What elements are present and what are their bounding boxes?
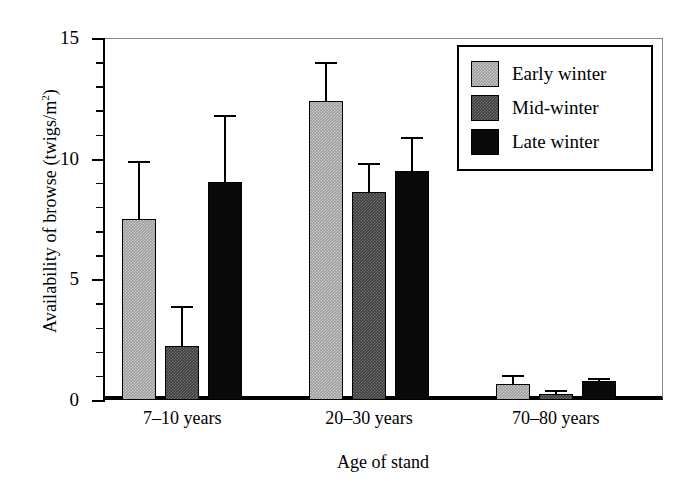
error-bar-cap-late-group-1 [214,115,236,117]
error-bar-cap-late-group-3 [588,378,610,380]
legend: Early winter Mid-winter Late winter [457,45,653,171]
error-bar-cap-early-group-3 [502,375,524,377]
error-bar-line-mid-group-1 [181,306,183,346]
legend-swatch-mid-winter [471,95,499,121]
bar-mid-winter-group-1 [165,346,199,400]
chart-figure: Availability of browse (twigs/m2) 051015… [0,0,694,499]
legend-item-mid-winter: Mid-winter [471,91,639,125]
y-axis-tick-label: 5 [19,269,79,288]
y-axis-title-tail: ) [40,89,60,95]
error-bar-cap-mid-group-1 [171,306,193,308]
y-axis-major-tick [92,400,105,402]
error-bar-line-late-group-1 [224,115,226,181]
legend-item-early-winter: Early winter [471,57,639,91]
bar-early-winter-group-2 [309,101,343,400]
x-axis-group-label-2: 20–30 years [279,408,459,429]
x-axis-group-label-3: 70–80 years [466,408,646,429]
bar-early-winter-group-1 [122,219,156,400]
error-bar-cap-mid-group-3 [545,390,567,392]
x-axis-group-label-1: 7–10 years [92,408,272,429]
legend-label-late-winter: Late winter [512,131,599,153]
bar-mid-winter-group-2 [352,192,386,400]
error-bar-cap-early-group-1 [128,161,150,163]
x-axis-title: Age of stand [103,452,663,473]
legend-label-early-winter: Early winter [512,63,606,85]
legend-swatch-late-winter [471,129,499,155]
y-axis-title: Availability of browse (twigs/m2) [39,11,61,411]
bar-late-winter-group-2 [395,171,429,400]
error-bar-cap-mid-group-2 [358,163,380,165]
error-bar-cap-late-group-2 [401,137,423,139]
error-bar-line-early-group-1 [138,161,140,219]
bar-late-winter-group-1 [208,182,242,400]
bar-early-winter-group-3 [496,384,530,400]
bar-mid-winter-group-3 [539,394,573,400]
legend-swatch-early-winter [471,61,499,87]
error-bar-line-late-group-2 [411,137,413,171]
bar-late-winter-group-3 [582,381,616,400]
error-bar-line-mid-group-2 [368,163,370,192]
legend-label-mid-winter: Mid-winter [512,97,599,119]
error-bar-line-early-group-2 [325,62,327,101]
legend-item-late-winter: Late winter [471,125,639,159]
y-axis-tick-label: 0 [19,390,79,409]
y-axis-title-superscript: 2 [39,95,51,101]
y-axis-tick-label: 10 [19,149,79,168]
error-bar-cap-early-group-2 [315,62,337,64]
y-axis-title-main: Availability of browse (twigs/m [40,101,60,333]
y-axis-tick-label: 15 [19,28,79,47]
